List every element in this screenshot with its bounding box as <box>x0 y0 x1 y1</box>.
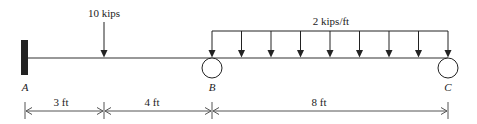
dimension-label-bc: 8 ft <box>312 96 327 108</box>
support-label-a: A <box>21 81 29 93</box>
roller-support-c <box>438 58 458 78</box>
dimension-label-ab1: 3 ft <box>54 96 69 108</box>
fixed-support-a <box>21 40 28 75</box>
distributed-load-label: 2 kips/ft <box>313 15 349 27</box>
roller-support-b <box>202 58 222 78</box>
support-label-b: B <box>209 81 216 93</box>
point-load-label: 10 kips <box>88 7 120 19</box>
beam-diagram: 10 kips 2 kips/ft A B C <box>0 0 477 124</box>
support-label-c: C <box>444 81 452 93</box>
dimension-lines <box>25 102 448 119</box>
distributed-load <box>209 31 452 58</box>
point-load-arrow <box>101 22 108 58</box>
dimension-label-ab2: 4 ft <box>145 96 160 108</box>
